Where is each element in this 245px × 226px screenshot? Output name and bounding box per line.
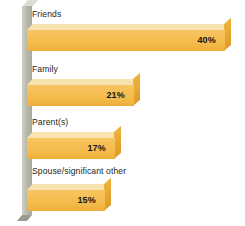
bar-label-friends: Friends (32, 9, 61, 19)
axis-foot-face (17, 215, 32, 221)
bar-end-cap (114, 126, 121, 159)
bar-value-friends: 40% (197, 30, 216, 51)
bar-spouse[interactable]: 15% (27, 184, 105, 205)
bar-end-cap (104, 178, 111, 211)
bar-end-cap (224, 18, 231, 51)
bar-end-cap (133, 73, 140, 106)
bar-label-parents: Parent(s) (32, 117, 68, 127)
bar-label-family: Family (32, 64, 58, 74)
bar-friends[interactable]: 40% (27, 24, 225, 45)
bar-label-spouse: Spouse/significant other (32, 166, 126, 176)
bar-family[interactable]: 21% (27, 79, 134, 100)
bar-value-spouse: 15% (77, 190, 96, 211)
bar-value-parents: 17% (87, 138, 106, 159)
bar-chart: Friends 40% Family 21% Parent(s) 17% Spo… (0, 0, 245, 226)
bar-parents[interactable]: 17% (27, 132, 115, 153)
bar-value-family: 21% (106, 85, 125, 106)
bar-front-face (27, 30, 225, 51)
